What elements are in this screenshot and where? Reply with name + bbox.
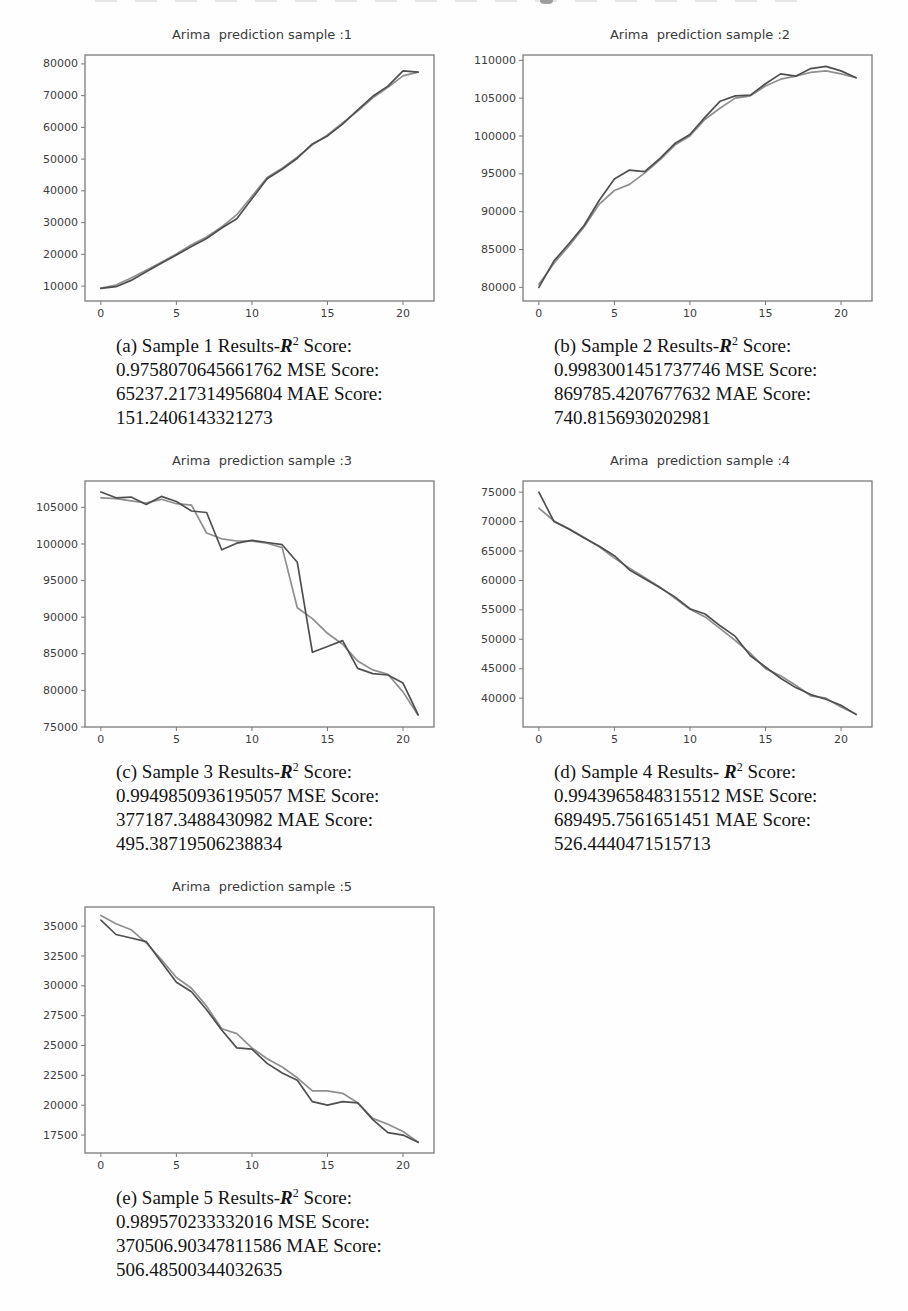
y-tick-label: 90000	[43, 611, 78, 624]
y-tick-label: 95000	[43, 574, 78, 587]
x-tick-label: 15	[320, 1159, 334, 1172]
caption-score-label: Score:	[299, 1187, 352, 1208]
caption-prefix: (c) Sample 3 Results-	[116, 761, 280, 782]
x-tick-label: 5	[173, 733, 180, 746]
y-tick-label: 60000	[481, 574, 516, 587]
figure-b: Arima prediction sample :2 8000085000900…	[466, 26, 890, 430]
x-tick-label: 20	[396, 733, 410, 746]
series-line-predicted	[101, 915, 418, 1142]
y-tick-label: 17500	[43, 1129, 78, 1142]
caption-prefix: (a) Sample 1 Results-	[116, 335, 280, 356]
y-tick-label: 25000	[43, 1039, 78, 1052]
x-tick-label: 10	[245, 307, 259, 320]
y-tick-label: 85000	[43, 647, 78, 660]
y-tick-label: 80000	[481, 281, 516, 294]
x-tick-label: 0	[97, 1159, 104, 1172]
figure-a: Arima prediction sample :1 1000020000300…	[28, 26, 452, 430]
r-squared-symbol: R	[724, 761, 737, 782]
y-tick-label: 80000	[43, 57, 78, 70]
y-tick-label: 35000	[43, 920, 78, 933]
y-tick-label: 30000	[43, 216, 78, 229]
x-tick-label: 5	[611, 733, 618, 746]
caption-scores: 0.9949850936195057 MSE Score: 377187.348…	[116, 784, 450, 856]
r-squared-symbol: R	[719, 335, 732, 356]
chart-title-d: Arima prediction sample :4	[466, 452, 890, 472]
chart-title-e: Arima prediction sample :5	[28, 878, 452, 898]
y-tick-label: 70000	[481, 515, 516, 528]
series-line-actual	[101, 492, 418, 715]
y-tick-label: 50000	[481, 633, 516, 646]
series-line-actual	[101, 920, 418, 1142]
chart-title-b: Arima prediction sample :2	[466, 26, 890, 46]
plot-border	[523, 481, 872, 727]
caption-score-label: Score:	[738, 335, 791, 356]
caption-prefix: (d) Sample 4 Results-	[554, 761, 724, 782]
x-tick-label: 0	[97, 307, 104, 320]
figure-caption-a: (a) Sample 1 Results-R2 Score: 0.9758070…	[116, 334, 450, 430]
chart-canvas-e: 1750020000225002500027500300003250035000…	[28, 898, 448, 1180]
chart-canvas-c: 7500080000850009000095000100000105000051…	[28, 472, 448, 754]
x-tick-label: 5	[173, 1159, 180, 1172]
series-line-predicted	[539, 71, 856, 284]
y-tick-label: 20000	[43, 1099, 78, 1112]
caption-scores: 0.989570233332016 MSE Score: 370506.9034…	[116, 1210, 450, 1282]
y-tick-label: 85000	[481, 243, 516, 256]
plot-border	[523, 55, 872, 301]
y-tick-label: 75000	[43, 721, 78, 734]
x-tick-label: 5	[611, 307, 618, 320]
caption-scores: 0.9983001451737746 MSE Score: 869785.420…	[554, 358, 888, 430]
y-tick-label: 100000	[36, 538, 78, 551]
x-tick-label: 15	[320, 307, 334, 320]
x-tick-label: 0	[97, 733, 104, 746]
series-line-predicted	[101, 72, 418, 288]
page-root: { "figures": [ { "id": "a", "title": "Ar…	[0, 0, 908, 1311]
y-tick-label: 105000	[36, 501, 78, 514]
y-tick-label: 110000	[474, 54, 516, 67]
figure-caption-c: (c) Sample 3 Results-R2 Score: 0.9949850…	[116, 760, 450, 856]
series-line-actual	[539, 66, 856, 287]
x-tick-label: 20	[834, 307, 848, 320]
scan-artifact-speck	[540, 0, 553, 4]
x-tick-label: 0	[535, 733, 542, 746]
caption-score-label: Score:	[743, 761, 796, 782]
series-line-actual	[101, 71, 418, 288]
chart-title-a: Arima prediction sample :1	[28, 26, 452, 46]
y-tick-label: 32500	[43, 950, 78, 963]
x-tick-label: 20	[834, 733, 848, 746]
chart-canvas-b: 8000085000900009500010000010500011000005…	[466, 46, 886, 328]
y-tick-label: 70000	[43, 89, 78, 102]
x-tick-label: 15	[758, 733, 772, 746]
caption-prefix: (b) Sample 2 Results-	[554, 335, 719, 356]
y-tick-label: 27500	[43, 1009, 78, 1022]
x-tick-label: 10	[683, 733, 697, 746]
scan-artifact-line	[95, 0, 805, 2]
r-squared-symbol: R	[280, 335, 293, 356]
x-tick-label: 10	[683, 307, 697, 320]
series-line-predicted	[101, 498, 418, 716]
caption-prefix: (e) Sample 5 Results-	[116, 1187, 280, 1208]
y-tick-label: 80000	[43, 684, 78, 697]
r-squared-symbol: R	[280, 761, 293, 782]
plot-border	[85, 907, 434, 1153]
y-tick-label: 100000	[474, 130, 516, 143]
chart-canvas-d: 4000045000500005500060000650007000075000…	[466, 472, 886, 754]
y-tick-label: 40000	[481, 692, 516, 705]
figure-caption-d: (d) Sample 4 Results- R2 Score: 0.994396…	[554, 760, 888, 856]
y-tick-label: 60000	[43, 121, 78, 134]
y-tick-label: 50000	[43, 153, 78, 166]
x-tick-label: 5	[173, 307, 180, 320]
y-tick-label: 30000	[43, 979, 78, 992]
figure-c: Arima prediction sample :3 7500080000850…	[28, 452, 452, 856]
x-tick-label: 0	[535, 307, 542, 320]
y-tick-label: 75000	[481, 486, 516, 499]
x-tick-label: 10	[245, 733, 259, 746]
x-tick-label: 20	[396, 1159, 410, 1172]
figure-e: Arima prediction sample :5 1750020000225…	[28, 878, 452, 1282]
chart-canvas-a: 1000020000300004000050000600007000080000…	[28, 46, 448, 328]
x-tick-label: 15	[758, 307, 772, 320]
y-tick-label: 105000	[474, 92, 516, 105]
figure-caption-e: (e) Sample 5 Results-R2 Score: 0.9895702…	[116, 1186, 450, 1282]
y-tick-label: 40000	[43, 184, 78, 197]
y-tick-label: 90000	[481, 205, 516, 218]
chart-title-c: Arima prediction sample :3	[28, 452, 452, 472]
